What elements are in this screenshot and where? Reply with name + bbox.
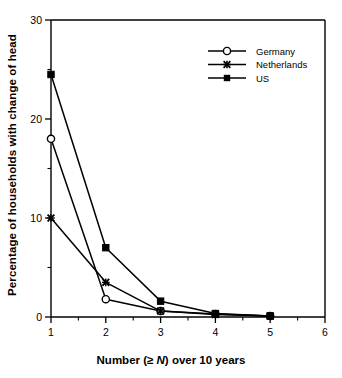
series-us-filled-square-marker — [267, 313, 273, 319]
series-us-filled-square-marker — [157, 298, 163, 304]
series-line-germany — [51, 139, 270, 316]
y-tick-label: 20 — [30, 113, 42, 125]
x-axis-title-suffix: ) over 10 years — [165, 354, 246, 366]
x-tick-label: 6 — [322, 326, 328, 338]
series-us-filled-square-marker — [212, 310, 218, 316]
legend-item-us: US — [208, 73, 269, 84]
x-tick-label: 5 — [267, 326, 273, 338]
legend-label: Netherlands — [256, 59, 307, 70]
y-tick-label: 0 — [36, 311, 42, 323]
series-line-us — [51, 74, 270, 316]
series-us-filled-square-marker — [48, 71, 54, 77]
chart-container: Percentage of households with change of … — [0, 0, 342, 378]
x-tick-label: 4 — [212, 326, 218, 338]
y-tick-label: 30 — [30, 14, 42, 26]
y-tick-label: 10 — [30, 212, 42, 224]
legend-item-germany: Germany — [208, 46, 295, 57]
x-axis-title-text: Number (≥ N) over 10 years — [97, 354, 246, 366]
series-us-filled-square-marker — [103, 245, 109, 251]
legend-label: US — [256, 73, 269, 84]
legend-label: Germany — [256, 46, 295, 57]
legend-filled-square-icon — [224, 75, 230, 81]
series-germany-open-circle-marker — [102, 296, 109, 303]
x-tick-label: 3 — [158, 326, 164, 338]
x-tick-label: 1 — [48, 326, 54, 338]
legend-open-circle-icon — [223, 47, 230, 54]
x-tick-label: 2 — [103, 326, 109, 338]
plot-area: 1234560102030GermanyNetherlandsUS — [0, 0, 342, 378]
series-germany-open-circle-marker — [47, 135, 54, 142]
x-axis-title-italic-n: N — [157, 354, 165, 366]
x-axis-title-prefix: Number (≥ — [97, 354, 157, 366]
x-axis-title: Number (≥ N) over 10 years — [0, 350, 342, 368]
legend-item-netherlands: Netherlands — [208, 59, 307, 70]
